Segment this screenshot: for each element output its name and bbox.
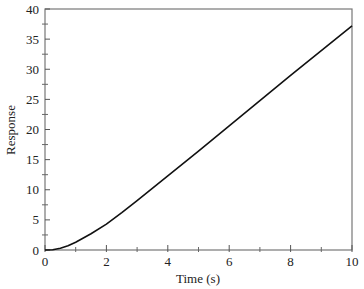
x-axis-title: Time (s) — [176, 271, 220, 286]
y-tick-label: 35 — [26, 32, 39, 47]
y-axis-title: Response — [3, 105, 18, 155]
response-line — [45, 26, 352, 250]
x-tick-label: 0 — [42, 254, 49, 269]
y-tick-label: 5 — [33, 212, 40, 227]
y-tick-label: 30 — [26, 62, 39, 77]
y-tick-label: 0 — [33, 243, 40, 258]
y-tick-label: 40 — [26, 2, 39, 17]
plot-frame — [45, 9, 352, 250]
y-axis: 0510152025303540 — [26, 2, 50, 258]
x-tick-label: 4 — [165, 254, 172, 269]
y-tick-label: 15 — [26, 152, 39, 167]
line-chart: 0510152025303540 0246810 Time (s) Respon… — [0, 0, 364, 289]
series-layer — [45, 26, 352, 250]
y-tick-label: 10 — [26, 182, 39, 197]
x-axis: 0246810 — [42, 245, 359, 269]
plot-border — [45, 9, 352, 250]
x-tick-label: 8 — [287, 254, 294, 269]
x-tick-label: 10 — [346, 254, 359, 269]
y-tick-label: 20 — [26, 122, 39, 137]
x-tick-label: 6 — [226, 254, 233, 269]
x-tick-label: 2 — [103, 254, 110, 269]
y-tick-label: 25 — [26, 92, 39, 107]
